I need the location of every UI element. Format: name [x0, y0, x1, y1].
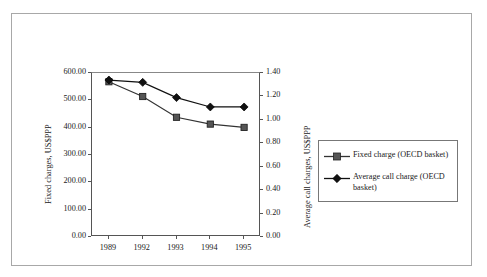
y-axis-left-tick-label: 0.00 [44, 232, 86, 240]
data-point-marker-diamond [240, 103, 248, 111]
legend-item-average-call-charge: Average call charge (OECD basket) [324, 172, 456, 193]
chart-legend: Fixed charge (OECD basket) Average call … [318, 140, 458, 202]
chart-figure: 0.00100.00200.00300.00400.00500.00600.00… [0, 0, 487, 277]
data-point-marker-square [241, 124, 247, 130]
x-axis-tick-label: 1995 [223, 244, 263, 252]
y-axis-left-tick-label: 500.00 [44, 95, 86, 103]
plot-area [91, 72, 260, 236]
y-axis-right-tick-label: 0.00 [266, 232, 308, 240]
data-point-marker-square [173, 114, 179, 120]
y-axis-right-tick-label: 1.40 [266, 68, 308, 76]
y-axis-right-tick-label: 0.20 [266, 209, 308, 217]
y-axis-left-tick-label: 600.00 [44, 68, 86, 76]
plot-series-svg [92, 73, 261, 237]
data-point-marker-diamond [139, 78, 147, 86]
y-axis-left-tick-mark [88, 236, 91, 237]
legend-label-fixed-charge: Fixed charge (OECD basket) [353, 150, 456, 161]
y-axis-right-tick-label: 1.20 [266, 91, 308, 99]
y-axis-right-tick-label: 0.40 [266, 185, 308, 193]
legend-label-average-call-charge: Average call charge (OECD basket) [353, 172, 456, 193]
data-point-marker-square [140, 93, 146, 99]
data-point-marker-square [207, 121, 213, 127]
y-axis-right-tick-label: 0.60 [266, 162, 308, 170]
legend-item-fixed-charge: Fixed charge (OECD basket) [324, 150, 456, 162]
y-axis-left-tick-label: 100.00 [44, 205, 86, 213]
legend-square-marker-icon [324, 151, 350, 162]
y-axis-right-tick-label: 1.00 [266, 115, 308, 123]
data-point-marker-diamond [206, 103, 214, 111]
y-axis-right-title: Average call charges, US$PPP [303, 126, 312, 229]
legend-diamond-marker-icon [324, 173, 350, 184]
data-point-marker-diamond [173, 94, 181, 102]
y-axis-right-tick-label: 0.80 [266, 138, 308, 146]
y-axis-left-title: Fixed charges, US$PPP [44, 124, 53, 204]
